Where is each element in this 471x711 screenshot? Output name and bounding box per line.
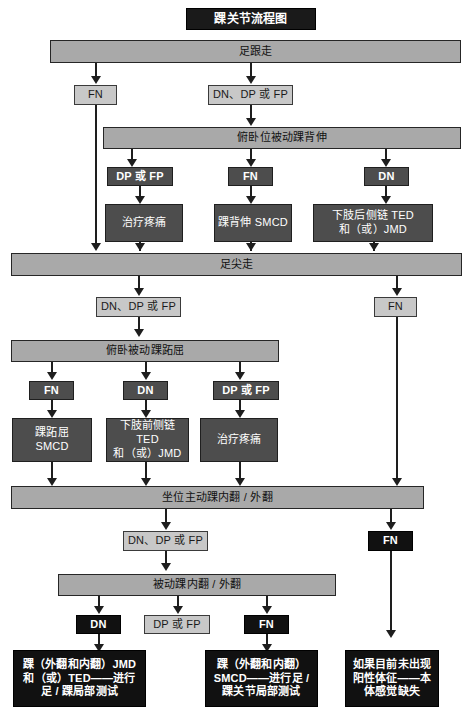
arrowhead-dpfp2-to-treatpain2 bbox=[235, 410, 245, 418]
arrowhead-dorsiflexion-to-dpfp1 bbox=[127, 159, 137, 167]
node-fn-heel: FN bbox=[74, 85, 117, 105]
arrowhead-treatpain1-to-toewalk bbox=[135, 243, 145, 251]
arrowhead-dndpfptoe-to-plantarflexion bbox=[134, 329, 144, 337]
arrowhead-plantarflexion-to-dpfp2 bbox=[235, 372, 245, 380]
connector-fnseated-to-outcome bbox=[390, 551, 392, 634]
connector-plantarsmcd-to-seated bbox=[51, 462, 53, 478]
arrowhead-plantarflexion-to-fn2 bbox=[47, 372, 57, 380]
connector-anteriorchain-to-seated bbox=[145, 462, 147, 478]
node-dn-2: DN bbox=[123, 381, 168, 400]
node-outcome-smcd: 踝（外翻和内翻） SMCD——进行足 / 踝关节局部测试 bbox=[205, 650, 318, 707]
arrowhead-toewalk-to-fnright bbox=[392, 288, 402, 296]
arrowhead-dorsiflexion-to-dn1 bbox=[381, 159, 391, 167]
arrowhead-fnheel-bypass bbox=[91, 243, 101, 251]
node-dorsiflexion-smcd: 踝背伸 SMCD bbox=[214, 204, 292, 242]
node-anterior-chain: 下肢前侧链 TED 和（或）JMD bbox=[106, 418, 189, 462]
node-fn-seated-right: FN bbox=[368, 531, 413, 551]
node-treat-pain-1: 治疗疼痛 bbox=[105, 204, 183, 242]
diagram-title: 踝关节流程图 bbox=[186, 8, 316, 30]
connector-fntoe-bypass bbox=[396, 317, 398, 482]
node-plantarflexion-smcd: 踝跖屈 SMCD bbox=[12, 418, 92, 462]
arrowhead-dndpfp-to-dorsiflexion bbox=[246, 118, 256, 126]
node-dn-1: DN bbox=[364, 167, 409, 186]
node-dn-dp-fp-seated: DN、DP 或 FP bbox=[123, 531, 208, 551]
node-fn-1: FN bbox=[228, 167, 273, 186]
arrowhead-plantarflexion-to-dn2 bbox=[141, 372, 151, 380]
arrowhead-fntoe-bypass bbox=[392, 478, 402, 486]
connector-fnheel-bypass bbox=[95, 105, 97, 247]
arrowhead-dpfp1-to-treatpain1 bbox=[135, 196, 145, 204]
arrowhead-posteriorchain-to-toewalk bbox=[369, 243, 379, 251]
node-dp-or-fp-3: DP 或 FP bbox=[144, 615, 210, 634]
node-dn-dp-fp-heel: DN、DP 或 FP bbox=[208, 85, 293, 105]
node-dn-dp-fp-toe: DN、DP 或 FP bbox=[96, 297, 181, 317]
arrowhead-anteriorchain-to-seated bbox=[141, 478, 151, 486]
node-dp-or-fp-2: DP 或 FP bbox=[213, 381, 279, 400]
arrowhead-fn2-to-plantarsmcd bbox=[47, 410, 57, 418]
arrowhead-fn1-to-dorsismcd bbox=[246, 196, 256, 204]
arrowhead-dn2-to-anteriorchain bbox=[141, 410, 151, 418]
arrowhead-passive-to-dpfp3 bbox=[173, 606, 183, 614]
arrowhead-dndpfpseated-to-passive bbox=[161, 563, 171, 571]
arrowhead-dorsiflexion-to-fn1 bbox=[246, 159, 256, 167]
node-fn-3: FN bbox=[244, 615, 289, 634]
node-outcome-proprioception: 如果目前未出现 阳性体征——本 体感觉缺失 bbox=[345, 650, 439, 707]
node-fn-toe-right: FN bbox=[374, 297, 417, 317]
node-passive-inversion-eversion: 被动踝内翻 / 外翻 bbox=[58, 574, 336, 596]
connector-treatpain2-to-seated bbox=[239, 462, 241, 478]
arrowhead-seated-to-dndpfp bbox=[161, 522, 171, 530]
node-prone-passive-plantarflexion: 俯卧被动踝跖屈 bbox=[11, 340, 279, 362]
node-treat-pain-2: 治疗疼痛 bbox=[200, 418, 278, 462]
arrowhead-seated-to-fnright bbox=[386, 522, 396, 530]
arrowhead-passive-to-dn3 bbox=[94, 606, 104, 614]
node-prone-passive-dorsiflexion: 俯卧位被动踝背伸 bbox=[103, 127, 461, 149]
arrowhead-passive-to-fn3 bbox=[262, 606, 272, 614]
arrowhead-dorsismcd-to-toewalk bbox=[246, 243, 256, 251]
arrowhead-plantarsmcd-to-seated bbox=[47, 478, 57, 486]
node-dn-3: DN bbox=[76, 615, 121, 634]
node-toe-walk: 足尖走 bbox=[11, 253, 462, 276]
arrowhead-fnseated-to-outcome bbox=[386, 630, 396, 638]
node-fn-2: FN bbox=[29, 381, 74, 400]
node-outcome-jmd-ted: 踝（外翻和内翻）JMD 和（或）TED——进行 足 / 踝局部测试 bbox=[13, 650, 146, 707]
arrowhead-heelwalk-to-dndpfp bbox=[246, 76, 256, 84]
node-seated-active-inversion-eversion: 坐位主动踝内翻 / 外翻 bbox=[11, 486, 424, 509]
arrowhead-treatpain2-to-seated bbox=[235, 478, 245, 486]
arrowhead-toewalk-to-dndpfp bbox=[134, 288, 144, 296]
ankle-flowchart-diagram: 踝关节流程图 足跟走 FN DN、DP 或 FP 俯卧位被动踝背伸 DP 或 F… bbox=[0, 0, 471, 711]
arrowhead-heelwalk-to-fn bbox=[91, 76, 101, 84]
node-dp-or-fp-1: DP 或 FP bbox=[107, 167, 173, 186]
arrowhead-dn1-to-posteriorchain bbox=[381, 196, 391, 204]
node-posterior-chain: 下肢后侧链 TED 和（或）JMD bbox=[313, 204, 433, 242]
node-heel-walk: 足跟走 bbox=[50, 40, 461, 63]
